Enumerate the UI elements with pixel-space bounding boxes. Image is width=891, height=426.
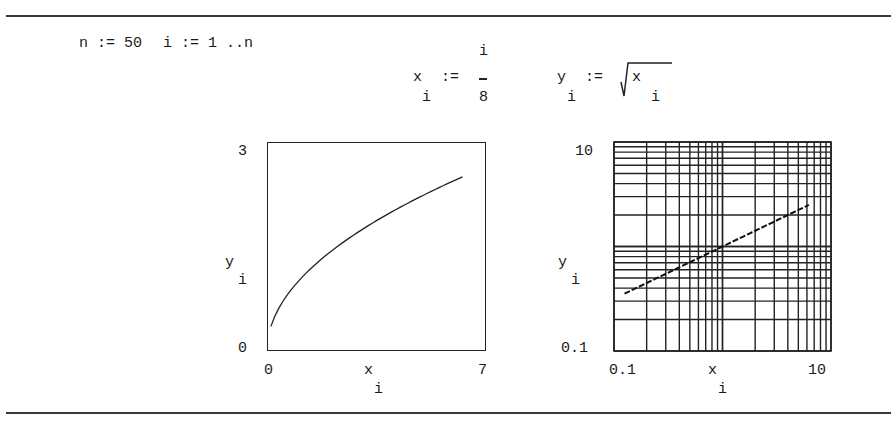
fraction-bar <box>479 78 487 80</box>
x-def-denominator: 8 <box>479 90 488 106</box>
y-axis-label: y <box>225 255 234 271</box>
log-log-plot[interactable]: 10 0.1 y i 0.1 10 x i <box>540 130 850 405</box>
n-definition[interactable]: n := 50 <box>79 36 142 52</box>
x-axis-label-subscript: i <box>374 382 383 398</box>
x-definition[interactable]: x i := i 8 <box>410 20 500 100</box>
x-axis-label: x <box>708 363 717 379</box>
x-axis-max-label: 7 <box>478 363 487 379</box>
x-axis-min-label: 0.1 <box>609 363 636 379</box>
x-def-lhs: x <box>413 70 422 86</box>
y-axis-label: y <box>558 255 567 271</box>
log-grid-and-curve <box>614 142 831 351</box>
x-axis-min-label: 0 <box>264 363 273 379</box>
y-axis-label-subscript: i <box>238 273 247 289</box>
x-axis-max-label: 10 <box>808 363 826 379</box>
x-def-assign: := <box>441 70 459 86</box>
y-def-radicand: x <box>632 70 641 86</box>
y-axis-max-label: 3 <box>238 144 247 160</box>
x-def-numerator: i <box>479 44 488 60</box>
top-region-divider <box>6 15 891 17</box>
bottom-region-divider <box>6 412 891 414</box>
y-axis-min-label: 0 <box>238 341 247 357</box>
sqrt-curve-linear <box>267 142 486 351</box>
x-axis-label: x <box>364 363 373 379</box>
linear-plot[interactable]: 3 0 y i 0 7 x i <box>200 130 510 405</box>
sqrt-radical-icon <box>555 20 675 100</box>
y-definition[interactable]: y i := x i <box>555 20 685 100</box>
y-axis-label-subscript: i <box>571 273 580 289</box>
x-def-lhs-subscript: i <box>422 90 431 106</box>
range-definition[interactable]: i := 1 ..n <box>163 36 253 52</box>
y-def-radicand-subscript: i <box>651 90 660 106</box>
x-axis-label-subscript: i <box>718 382 727 398</box>
y-axis-max-label: 10 <box>575 144 593 160</box>
y-axis-min-label: 0.1 <box>561 341 588 357</box>
